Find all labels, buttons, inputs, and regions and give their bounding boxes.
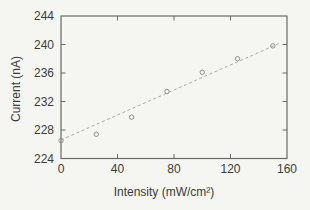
y-tick-label: 228	[34, 123, 54, 137]
y-axis-title: Current (nA)	[9, 56, 23, 122]
x-tick-label: 160	[277, 162, 297, 176]
plot-area: 04080120160224228232236240244	[34, 9, 297, 176]
scatter-chart: 04080120160224228232236240244 Intensity …	[0, 0, 310, 210]
x-tick-label: 80	[167, 162, 181, 176]
y-tick-label: 244	[34, 9, 54, 23]
data-point	[94, 132, 98, 136]
y-tick-label: 232	[34, 95, 54, 109]
data-point	[200, 70, 204, 74]
scatter-figure: 04080120160224228232236240244 Intensity …	[0, 0, 310, 210]
y-tick-label: 236	[34, 66, 54, 80]
x-tick-label: 120	[220, 162, 240, 176]
y-tick-label: 240	[34, 38, 54, 52]
plot-frame	[61, 16, 287, 159]
data-point	[129, 115, 133, 119]
data-point	[165, 89, 169, 93]
x-axis-title: Intensity (mW/cm²)	[114, 185, 215, 199]
data-point	[235, 57, 239, 61]
fit-line	[61, 43, 280, 140]
x-tick-label: 0	[58, 162, 65, 176]
x-tick-label: 40	[111, 162, 125, 176]
y-tick-label: 224	[34, 152, 54, 166]
